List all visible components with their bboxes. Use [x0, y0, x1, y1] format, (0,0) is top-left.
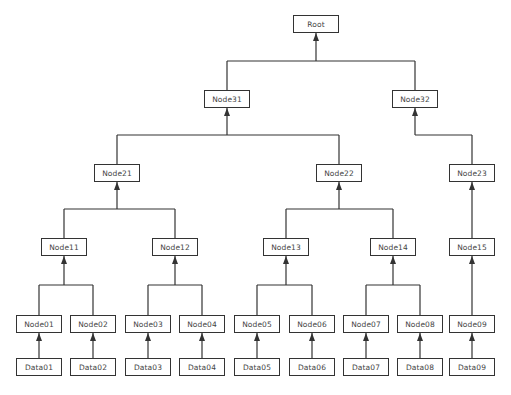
node-box-node02: Node02: [70, 315, 116, 333]
node-box-data09: Data09: [449, 358, 495, 376]
arrowhead-icon: [469, 333, 475, 341]
arrowhead-icon: [145, 333, 151, 341]
arrowhead-icon: [199, 333, 205, 341]
node-box-node31: Node31: [204, 90, 250, 108]
node-box-node09: Node09: [449, 315, 495, 333]
arrowhead-icon: [469, 256, 475, 264]
arrowhead-icon: [172, 256, 178, 264]
arrowhead-icon: [283, 256, 289, 264]
node-box-node14: Node14: [370, 238, 416, 256]
node-box-node07: Node07: [343, 315, 389, 333]
node-box-data08: Data08: [397, 358, 443, 376]
node-box-node21: Node21: [94, 164, 140, 182]
arrowhead-icon: [90, 333, 96, 341]
node-box-data02: Data02: [70, 358, 116, 376]
node-box-data04: Data04: [179, 358, 225, 376]
arrowhead-icon: [412, 108, 418, 116]
arrowhead-icon: [224, 108, 230, 116]
arrowhead-icon: [390, 256, 396, 264]
arrowhead-icon: [313, 33, 319, 41]
arrowhead-icon: [114, 182, 120, 190]
node-box-node03: Node03: [125, 315, 171, 333]
arrowhead-icon: [309, 333, 315, 341]
node-box-root: Root: [293, 15, 339, 33]
node-box-node08: Node08: [397, 315, 443, 333]
node-box-node22: Node22: [316, 164, 362, 182]
node-box-node13: Node13: [263, 238, 309, 256]
arrowhead-icon: [469, 182, 475, 190]
node-box-data05: Data05: [234, 358, 280, 376]
tree-diagram: RootNode31Node32Node21Node22Node23Node11…: [0, 0, 511, 395]
node-box-node05: Node05: [234, 315, 280, 333]
node-box-node01: Node01: [16, 315, 62, 333]
node-box-data06: Data06: [289, 358, 335, 376]
node-box-data07: Data07: [343, 358, 389, 376]
arrowhead-icon: [36, 333, 42, 341]
node-box-node04: Node04: [179, 315, 225, 333]
arrowhead-icon: [61, 256, 67, 264]
node-box-node11: Node11: [41, 238, 87, 256]
node-box-node06: Node06: [289, 315, 335, 333]
arrowhead-icon: [363, 333, 369, 341]
figure-caption: [0, 386, 511, 395]
node-box-node32: Node32: [392, 90, 438, 108]
arrowhead-icon: [417, 333, 423, 341]
arrowhead-icon: [336, 182, 342, 190]
connector-lines: [0, 0, 511, 395]
node-box-node15: Node15: [449, 238, 495, 256]
node-box-node23: Node23: [449, 164, 495, 182]
node-box-node12: Node12: [152, 238, 198, 256]
node-box-data03: Data03: [125, 358, 171, 376]
arrowhead-icon: [254, 333, 260, 341]
node-box-data01: Data01: [16, 358, 62, 376]
